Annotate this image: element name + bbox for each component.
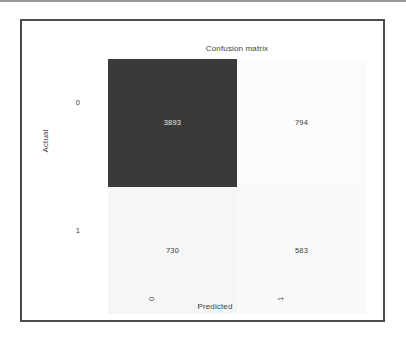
cell-value-false-positive: 794	[295, 119, 308, 127]
cell-false-negative: 730	[108, 187, 237, 315]
x-tick-label-0: 0	[147, 297, 156, 301]
x-axis-label: Predicted	[86, 302, 344, 311]
y-tick-label-0: 0	[66, 98, 80, 107]
page-top-edge	[0, 0, 406, 2]
y-axis-ticks: 0 1	[64, 0, 80, 341]
cell-value-true-positive: 583	[295, 247, 308, 255]
x-tick-label-1: 1	[276, 297, 285, 301]
confusion-matrix-axes: 3893 794 730 583	[108, 59, 366, 314]
cell-value-false-negative: 730	[166, 247, 179, 255]
cell-true-negative: 3893	[108, 59, 237, 187]
cell-value-true-negative: 3893	[164, 119, 182, 127]
confusion-matrix-heatmap: 3893 794 730 583	[108, 59, 366, 314]
y-axis-label: Actual	[41, 129, 50, 152]
chart-title: Confusion matrix	[108, 44, 366, 53]
cell-true-positive: 583	[237, 187, 366, 315]
y-tick-label-1: 1	[66, 226, 80, 235]
cell-false-positive: 794	[237, 59, 366, 187]
